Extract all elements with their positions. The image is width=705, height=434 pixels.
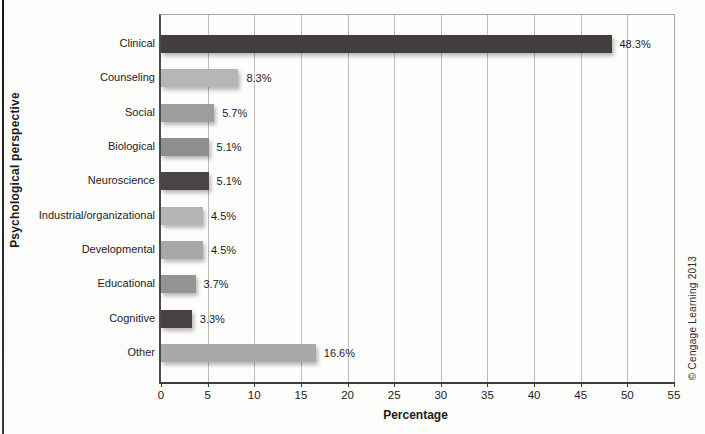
bar-row-other: 16.6%	[161, 336, 674, 370]
tick-label-55: 55	[668, 389, 681, 401]
value-label-biological: 5.1%	[217, 141, 242, 153]
value-label-other: 16.6%	[324, 347, 355, 359]
value-label-counseling: 8.3%	[246, 72, 271, 84]
page-edge-line	[2, 0, 4, 434]
bar-row-biological: 5.1%	[161, 130, 674, 164]
value-label-neuroscience: 5.1%	[217, 175, 242, 187]
bar-social	[161, 104, 214, 122]
bar-biological	[161, 138, 209, 156]
tick-mark-10	[254, 382, 255, 387]
plot-area: 48.3%8.3%5.7%5.1%5.1%4.5%4.5%3.7%3.3%16.…	[159, 14, 675, 384]
tick-label-15: 15	[295, 389, 308, 401]
bar-other	[161, 344, 316, 362]
value-label-social: 5.7%	[222, 107, 247, 119]
x-axis-tick-marks	[161, 382, 674, 388]
tick-mark-35	[487, 382, 488, 387]
category-label-biological: Biological	[24, 129, 155, 163]
tick-label-0: 0	[158, 389, 164, 401]
bars-container: 48.3%8.3%5.7%5.1%5.1%4.5%4.5%3.7%3.3%16.…	[161, 15, 674, 382]
x-axis-tick-labels: 0510152025303540455055	[161, 389, 674, 403]
figure: Psychological perspective ClinicalCounse…	[0, 0, 705, 434]
tick-label-45: 45	[574, 389, 587, 401]
tick-mark-15	[301, 382, 302, 387]
value-label-developmental: 4.5%	[211, 244, 236, 256]
tick-mark-55	[674, 382, 675, 387]
tick-mark-45	[581, 382, 582, 387]
y-axis-title: Psychological perspective	[8, 92, 22, 248]
category-labels: ClinicalCounselingSocialBiologicalNeuros…	[24, 14, 155, 381]
tick-label-30: 30	[434, 389, 447, 401]
category-label-industrial-organizational: Industrial/organizational	[24, 197, 155, 231]
tick-mark-25	[394, 382, 395, 387]
category-label-neuroscience: Neuroscience	[24, 163, 155, 197]
bar-educational	[161, 275, 196, 293]
tick-label-50: 50	[621, 389, 634, 401]
copyright-notice: © Cengage Learning 2013	[687, 256, 698, 380]
tick-mark-40	[534, 382, 535, 387]
category-label-educational: Educational	[24, 266, 155, 300]
tick-mark-0	[161, 382, 162, 387]
category-label-social: Social	[24, 95, 155, 129]
tick-mark-5	[208, 382, 209, 387]
tick-mark-30	[441, 382, 442, 387]
bar-clinical	[161, 35, 612, 53]
tick-label-25: 25	[388, 389, 401, 401]
value-label-industrial-organizational: 4.5%	[211, 210, 236, 222]
bar-cognitive	[161, 310, 192, 328]
bar-row-clinical: 48.3%	[161, 27, 674, 61]
bar-neuroscience	[161, 172, 209, 190]
bar-row-developmental: 4.5%	[161, 233, 674, 267]
tick-mark-50	[627, 382, 628, 387]
x-axis-title: Percentage	[159, 408, 672, 422]
value-label-educational: 3.7%	[204, 278, 229, 290]
category-label-other: Other	[24, 335, 155, 369]
bar-row-educational: 3.7%	[161, 267, 674, 301]
bar-industrial-organizational	[161, 207, 203, 225]
bar-counseling	[161, 69, 238, 87]
tick-label-35: 35	[481, 389, 494, 401]
tick-mark-20	[348, 382, 349, 387]
category-label-developmental: Developmental	[24, 232, 155, 266]
value-label-clinical: 48.3%	[620, 38, 651, 50]
bar-row-cognitive: 3.3%	[161, 301, 674, 335]
tick-label-40: 40	[528, 389, 541, 401]
value-label-cognitive: 3.3%	[200, 313, 225, 325]
category-label-counseling: Counseling	[24, 60, 155, 94]
bar-row-neuroscience: 5.1%	[161, 164, 674, 198]
tick-label-20: 20	[341, 389, 354, 401]
tick-label-10: 10	[248, 389, 261, 401]
bar-row-industrial-organizational: 4.5%	[161, 198, 674, 232]
category-label-cognitive: Cognitive	[24, 300, 155, 334]
category-label-clinical: Clinical	[24, 26, 155, 60]
bar-row-counseling: 8.3%	[161, 61, 674, 95]
bar-developmental	[161, 241, 203, 259]
bar-row-social: 5.7%	[161, 96, 674, 130]
tick-label-5: 5	[204, 389, 210, 401]
